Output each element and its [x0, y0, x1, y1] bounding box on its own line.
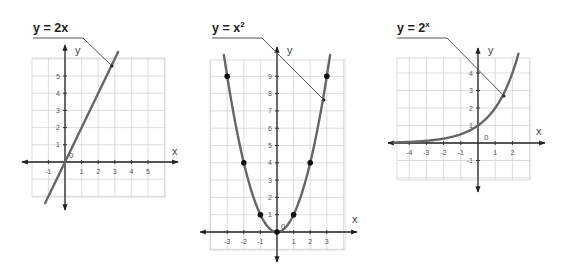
- x-tick-label: 5: [146, 168, 150, 175]
- origin-label: 0: [281, 222, 286, 231]
- x-tick-label: 2: [308, 238, 312, 245]
- y-tick-label: 4: [469, 70, 473, 77]
- y-tick-label: 2: [56, 124, 60, 131]
- data-point: [274, 229, 280, 235]
- x-tick-label: 1: [493, 149, 497, 156]
- ticks: -4-3-2-112-11234: [406, 70, 514, 165]
- data-point: [224, 74, 230, 80]
- data-point: [241, 160, 247, 166]
- y-tick-label: 3: [469, 87, 473, 94]
- axes: [388, 48, 545, 192]
- graph-linear: -11234512345 y = 2x x y 0: [22, 21, 178, 210]
- x-tick-label: -4: [406, 149, 412, 156]
- y-axis-label: y: [75, 44, 81, 56]
- y-tick-label: 2: [469, 105, 473, 112]
- y-tick-label: 4: [56, 90, 60, 97]
- ticks: -11234512345: [45, 73, 150, 176]
- x-tick-label: 3: [113, 168, 117, 175]
- y-tick-label: 5: [268, 142, 272, 149]
- x-tick-label: -1: [45, 168, 51, 175]
- x-tick-label: -1: [257, 238, 263, 245]
- x-tick-label: 1: [292, 238, 296, 245]
- function-graphs-figure: -11234512345 y = 2x x y 0 -3-2-112312345…: [0, 0, 563, 276]
- y-tick-label: 9: [268, 73, 272, 80]
- x-tick-label: 1: [80, 168, 84, 175]
- x-tick-label: -3: [423, 149, 429, 156]
- y-tick-label: 3: [268, 177, 272, 184]
- y-tick-label: -1: [467, 157, 473, 164]
- y-tick-label: 1: [268, 211, 272, 218]
- title-leader-line: [33, 38, 114, 68]
- origin-label: 0: [484, 133, 489, 142]
- y-axis-label: y: [488, 44, 494, 56]
- y-tick-label: 5: [56, 73, 60, 80]
- x-tick-label: -2: [440, 149, 446, 156]
- graph-quadratic: -3-2-1123123456789 y = x2 x y 0: [200, 20, 358, 262]
- x-tick-label: -2: [241, 238, 247, 245]
- x-tick-label: -1: [458, 149, 464, 156]
- data-point: [324, 74, 330, 80]
- graph-title: y = 2x: [33, 21, 68, 35]
- graph-title: y = 2x: [397, 20, 430, 35]
- x-axis-label: x: [352, 213, 358, 225]
- origin-label: 0: [69, 151, 74, 160]
- y-axis-label: y: [287, 44, 293, 56]
- x-tick-label: 4: [129, 168, 133, 175]
- x-axis-label: x: [536, 125, 542, 137]
- x-tick-label: -3: [224, 238, 230, 245]
- y-tick-label: 2: [268, 194, 272, 201]
- grid: [32, 58, 165, 197]
- data-point: [307, 160, 313, 166]
- y-tick-label: 8: [268, 90, 272, 97]
- graph-exponential: -4-3-2-112-11234 y = 2x x y 0: [388, 20, 545, 192]
- y-tick-label: 7: [268, 107, 272, 114]
- data-point: [258, 212, 264, 218]
- x-axis-label: x: [172, 145, 178, 157]
- graph-title: y = x2: [212, 20, 245, 35]
- x-tick-label: 2: [510, 149, 514, 156]
- curve-exponential: [394, 54, 519, 143]
- function-curve: [394, 54, 519, 143]
- y-tick-label: 4: [268, 159, 272, 166]
- y-tick-label: 6: [268, 125, 272, 132]
- data-point: [291, 212, 297, 218]
- y-tick-label: 1: [56, 141, 60, 148]
- x-tick-label: 2: [96, 168, 100, 175]
- x-tick-label: 3: [325, 238, 329, 245]
- y-tick-label: 3: [56, 107, 60, 114]
